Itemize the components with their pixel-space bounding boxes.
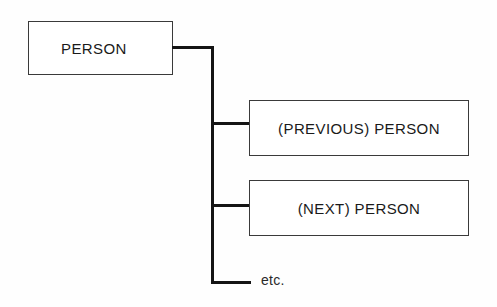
entity-box-next-person[interactable]: (NEXT) PERSON [249, 180, 469, 236]
diagram-canvas: PERSON (PREVIOUS) PERSON (NEXT) PERSON e… [0, 0, 497, 307]
etc-label: etc. [261, 272, 285, 288]
connector-branch-etc [211, 281, 251, 284]
entity-label-person: PERSON [29, 40, 172, 57]
entity-label-previous-person: (PREVIOUS) PERSON [250, 120, 468, 137]
entity-box-person[interactable]: PERSON [28, 21, 173, 75]
entity-box-previous-person[interactable]: (PREVIOUS) PERSON [249, 100, 469, 156]
connector-branch-next-person [211, 204, 251, 207]
connector-person-to-trunk [172, 46, 214, 49]
connector-trunk-vertical [211, 46, 214, 284]
entity-label-next-person: (NEXT) PERSON [250, 200, 468, 217]
connector-branch-previous-person [211, 122, 251, 125]
